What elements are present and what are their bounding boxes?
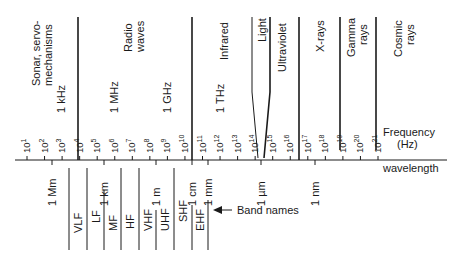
wl-marker-1um: 1 µm	[255, 181, 267, 206]
region-label-radio-1: Radio	[122, 23, 134, 52]
axis-ticks	[27, 156, 378, 160]
frequency-tick-label: 1014	[248, 135, 260, 153]
frequency-tick-label: 104	[73, 138, 85, 153]
region-label-cosmic-1: Cosmic	[392, 20, 404, 57]
region-labels: Sonar, servo- mechanisms Radio waves Inf…	[30, 17, 416, 86]
band-shf: SHF	[177, 200, 189, 222]
frequency-tick-label: 108	[143, 138, 155, 153]
band-uhf: UHF	[159, 208, 171, 231]
wl-marker-1mm-mega: 1 Mm	[46, 179, 58, 207]
frequency-tick-label: 1016	[283, 135, 295, 153]
frequency-tick-label: 109	[160, 138, 172, 153]
region-label-cosmic-2: rays	[404, 24, 416, 45]
frequency-tick-label: 1021	[371, 135, 383, 153]
frequency-tick-label: 107	[125, 138, 137, 153]
frequency-tick-label: 1017	[301, 135, 313, 153]
region-label-infrared: Infrared	[218, 22, 230, 60]
region-label-radio-2: waves	[134, 20, 146, 53]
band-hf: HF	[124, 214, 136, 229]
region-label-xrays: X-rays	[314, 20, 326, 52]
band-vhf: VHF	[142, 209, 154, 231]
region-label-sonar-1: Sonar, servo-	[30, 20, 42, 86]
frequency-markers: 1 kHz 1 MHz 1 GHz 1 THz	[55, 81, 226, 113]
region-label-gamma-2: rays	[357, 24, 369, 45]
frequency-tick-label: 106	[108, 138, 120, 153]
frequency-tick-label: 1020	[353, 135, 365, 153]
band-ehf: EHF	[194, 209, 206, 231]
frequency-tick-label: 1018	[318, 135, 330, 153]
arrow-left-icon	[213, 206, 222, 214]
frequency-tick-label: 103	[55, 138, 67, 153]
band-mf: MF	[107, 215, 119, 231]
band-lf: LF	[90, 210, 102, 223]
freq-marker-1ghz: 1 GHz	[161, 82, 173, 113]
frequency-tick-label: 1019	[336, 135, 348, 153]
electromagnetic-spectrum-diagram: Sonar, servo- mechanisms Radio waves Inf…	[0, 0, 460, 264]
region-label-sonar-2: mechanisms	[42, 24, 54, 86]
freq-marker-1mhz: 1 MHz	[108, 81, 120, 113]
frequency-tick-label: 102	[38, 138, 50, 153]
freq-marker-1khz: 1 kHz	[55, 85, 67, 113]
band-names-caption: Band names	[237, 204, 299, 216]
frequency-tick-label: 105	[90, 138, 102, 153]
frequency-axis-label-2: (Hz)	[397, 138, 418, 150]
frequency-tick-label: 1010	[178, 135, 190, 153]
frequency-tick-label: 1013	[231, 135, 243, 153]
frequency-tick-label: 1011	[196, 135, 208, 153]
frequency-tick-labels: 1011021031041051061071081091010101110121…	[20, 135, 383, 153]
region-label-ultraviolet: Ultraviolet	[276, 23, 288, 72]
wavelength-ticks	[52, 160, 315, 165]
freq-marker-1thz: 1 THz	[214, 84, 226, 113]
frequency-tick-label: 1012	[213, 135, 225, 153]
frequency-tick-label: 101	[20, 138, 32, 153]
region-label-gamma-1: Gamma	[345, 17, 357, 57]
band-vlf: VLF	[72, 213, 84, 233]
frequency-axis-label-1: Frequency	[383, 126, 435, 138]
wl-marker-1m: 1 m	[150, 188, 162, 206]
frequency-tick-label: 1015	[266, 135, 278, 153]
band-names-callout: Band names	[213, 204, 299, 216]
region-label-light: Light	[256, 18, 268, 42]
wl-marker-1nm: 1 nm	[309, 182, 321, 206]
wavelength-axis-label: wavelength	[382, 162, 439, 174]
